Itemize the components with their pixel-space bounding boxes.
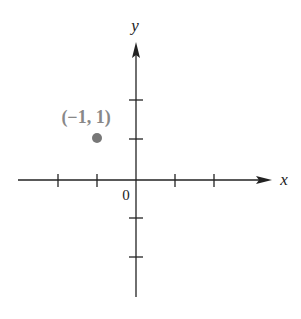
data-point	[92, 133, 102, 143]
coordinate-plane: (−1, 1) y x 0	[0, 0, 301, 319]
point-label: (−1, 1)	[61, 107, 110, 128]
y-axis-label: y	[129, 16, 139, 35]
x-axis-label: x	[279, 170, 288, 189]
origin-label: 0	[122, 187, 130, 203]
